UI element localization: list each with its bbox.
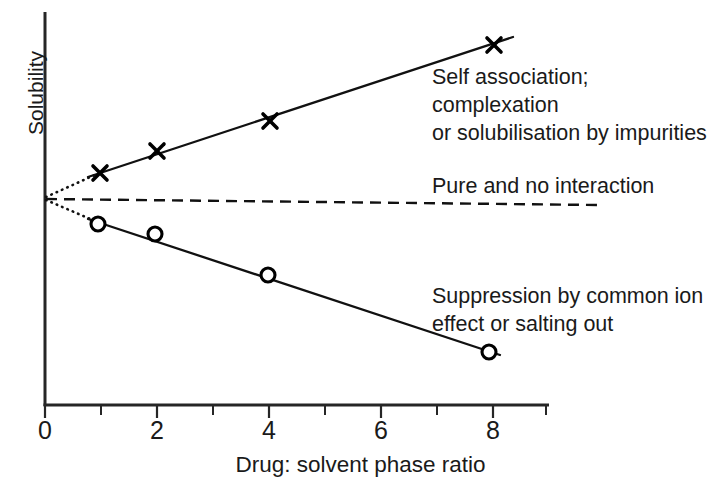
x-axis-title: Drug: solvent phase ratio: [0, 452, 721, 478]
annotation-self-association: Self association; complexation or solubi…: [432, 64, 721, 148]
marker-x-ratio-1: [93, 166, 107, 180]
x-tick-label-2: 2: [143, 418, 171, 443]
x-axis-ticks: [45, 405, 546, 418]
y-axis-title: Solubility: [24, 51, 48, 135]
x-tick-label-6: 6: [367, 418, 395, 443]
annotation-suppression: Suppression by common ion effect or salt…: [432, 283, 703, 339]
x-tick-label-0: 0: [31, 418, 59, 443]
marker-o-ratio-1: [91, 217, 105, 231]
marker-o-ratio-2: [148, 227, 162, 241]
solubility-phase-ratio-figure: 0 2 4 6 8 Drug: solvent phase ratio Solu…: [0, 0, 721, 483]
annotation-pure-no-interaction: Pure and no interaction: [432, 173, 654, 201]
x-tick-label-8: 8: [479, 418, 507, 443]
x-tick-label-4: 4: [255, 418, 283, 443]
marker-o-ratio-4: [261, 268, 275, 282]
marker-o-ratio-8: [482, 345, 496, 359]
series-suppression-extrapolation: [46, 200, 95, 221]
marker-x-ratio-2: [150, 144, 164, 158]
